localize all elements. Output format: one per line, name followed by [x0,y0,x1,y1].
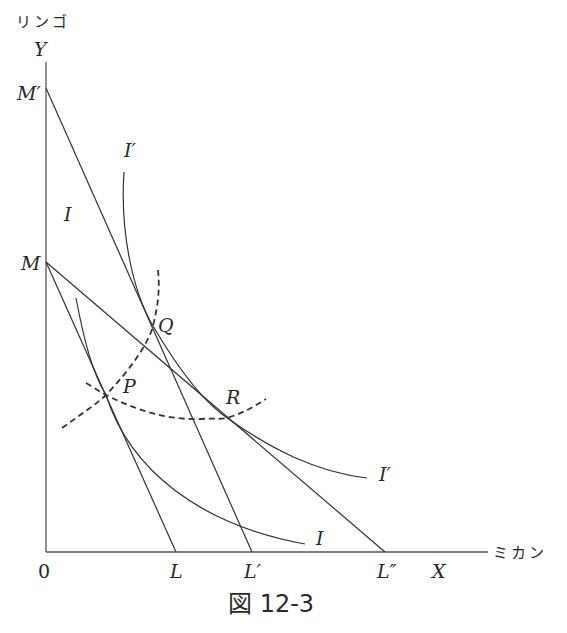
intercept-label-Mprime: M′ [16,82,41,104]
indifference-curve-I [76,298,305,544]
x-axis-name: ミカン [493,544,547,562]
x-axis-label: X [430,560,447,582]
budget-line-M-Ldoubleprime [46,262,385,552]
budget-line-M-L [46,262,176,552]
intercept-label-L: L [169,560,183,582]
origin-label: 0 [38,560,50,582]
curve-label-I-top: I [63,203,72,225]
point-label-R: R [225,386,240,408]
point-label-P: P [122,375,137,397]
curve-label-I-bottom: I [315,527,324,549]
intercept-label-Lprime: L′ [243,560,262,582]
curve-label-Iprime-top: I′ [123,139,137,161]
curve-label-Iprime-right: I′ [378,463,392,485]
intercept-label-M: M [20,252,41,274]
y-axis-label: Y [34,38,49,60]
figure-caption: 図 12-3 [228,590,314,618]
indifference-curve-diagram: リンゴ Y ミカン X 0 M′ M L L′ L″ I I I′ I′ P Q… [0,0,567,633]
budget-line-Mprime-Lprime [46,88,252,552]
point-label-Q: Q [158,314,174,336]
y-axis-name: リンゴ [16,13,70,31]
intercept-label-Ldoubleprime: L″ [376,560,397,582]
